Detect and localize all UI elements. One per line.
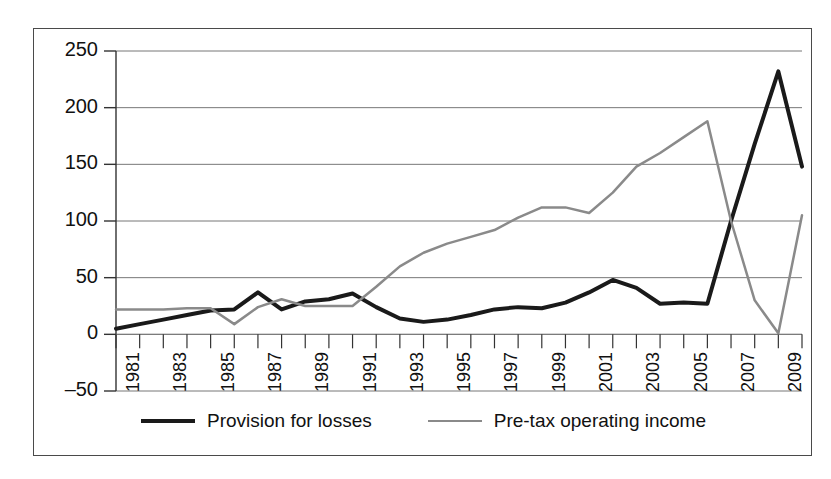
y-axis-label-50: 50 bbox=[36, 265, 98, 288]
y-axis-label-250: 250 bbox=[36, 38, 98, 61]
legend-label-pre-tax-operating-income: Pre-tax operating income bbox=[494, 410, 706, 432]
x-axis-ticks bbox=[116, 334, 802, 348]
line-chart-plot bbox=[34, 29, 813, 457]
gray-line-swatch bbox=[428, 420, 482, 423]
gridlines-group bbox=[116, 51, 802, 391]
series-line-provision-for-losses bbox=[116, 71, 802, 328]
x-axis-label-1985: 1985 bbox=[218, 352, 239, 392]
y-axis-label-100: 100 bbox=[36, 208, 98, 231]
y-axis-label--50: –50 bbox=[36, 378, 98, 401]
x-axis-label-1993: 1993 bbox=[407, 352, 428, 392]
x-axis-label-1989: 1989 bbox=[312, 352, 333, 392]
legend-label-provision-for-losses: Provision for losses bbox=[207, 410, 372, 432]
x-axis-label-2005: 2005 bbox=[691, 352, 712, 392]
black-line-swatch bbox=[141, 419, 195, 423]
data-series-group bbox=[116, 71, 802, 333]
x-axis-label-2003: 2003 bbox=[643, 352, 664, 392]
x-axis-label-1999: 1999 bbox=[549, 352, 570, 392]
x-axis-label-1987: 1987 bbox=[265, 352, 286, 392]
y-axis-label-200: 200 bbox=[36, 95, 98, 118]
y-axis-label-150: 150 bbox=[36, 151, 98, 174]
chart-legend: Provision for losses Pre-tax operating i… bbox=[34, 401, 813, 441]
x-axis-label-2007: 2007 bbox=[738, 352, 759, 392]
chart-page: –50050100150200250 198119831985198719891… bbox=[0, 0, 831, 479]
x-axis-label-1981: 1981 bbox=[123, 352, 144, 392]
legend-item-pre-tax-operating-income: Pre-tax operating income bbox=[428, 410, 706, 432]
legend-item-provision-for-losses: Provision for losses bbox=[141, 410, 372, 432]
x-axis-label-1983: 1983 bbox=[170, 352, 191, 392]
x-axis-label-1995: 1995 bbox=[454, 352, 475, 392]
x-axis-label-2009: 2009 bbox=[785, 352, 806, 392]
x-axis-label-1997: 1997 bbox=[501, 352, 522, 392]
y-axis-ticks bbox=[104, 51, 116, 391]
x-axis-label-1991: 1991 bbox=[360, 352, 381, 392]
x-axis-label-2001: 2001 bbox=[596, 352, 617, 392]
chart-frame: –50050100150200250 198119831985198719891… bbox=[33, 28, 812, 456]
y-axis-label-0: 0 bbox=[36, 321, 98, 344]
